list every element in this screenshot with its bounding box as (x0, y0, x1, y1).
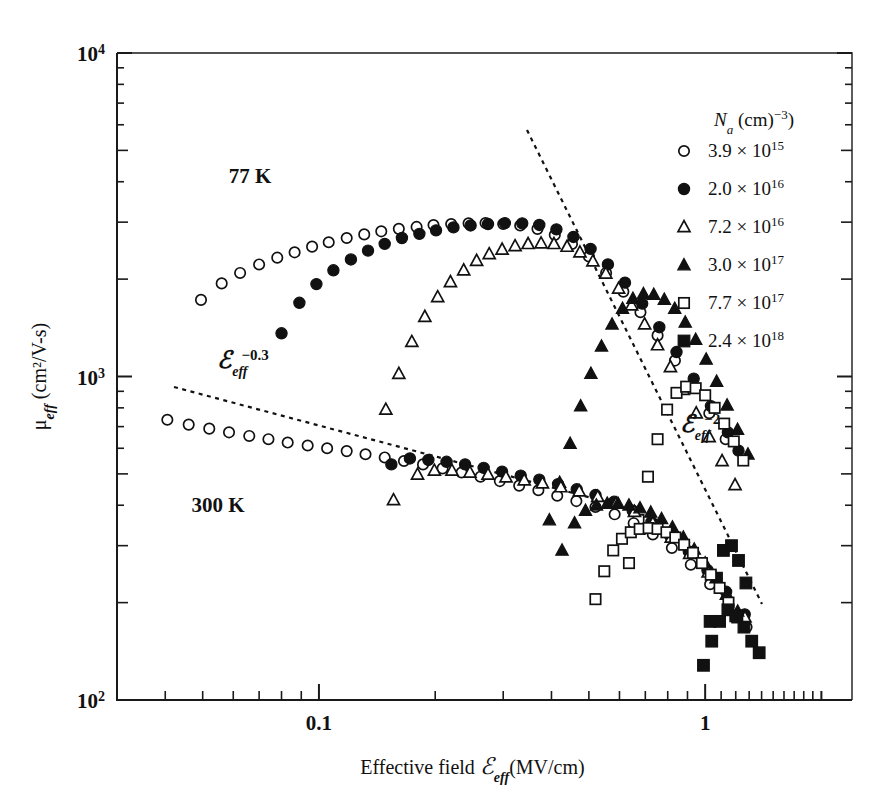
marker-filled-square (730, 610, 742, 622)
marker-open-square (590, 594, 600, 604)
marker-filled-circle (671, 346, 682, 357)
marker-open-circle (272, 252, 282, 262)
marker-filled-circle (404, 453, 415, 464)
temp-77k: 77 K (229, 164, 272, 188)
marker-open-circle (224, 427, 234, 437)
marker-open-square (700, 390, 710, 400)
marker-open-circle (254, 259, 264, 269)
marker-open-square (679, 298, 689, 308)
marker-open-circle (679, 146, 689, 156)
marker-filled-square (746, 635, 758, 647)
marker-open-circle (204, 423, 214, 433)
marker-filled-circle (678, 183, 689, 194)
marker-filled-circle (311, 279, 322, 290)
temp-300k: 300 K (191, 493, 245, 517)
marker-filled-circle (276, 328, 287, 339)
marker-open-square (706, 569, 716, 579)
marker-open-square (662, 404, 672, 414)
marker-filled-circle (585, 243, 596, 254)
marker-open-circle (162, 415, 172, 425)
marker-open-square (624, 558, 634, 568)
marker-open-square (688, 548, 698, 558)
marker-open-circle (686, 559, 696, 569)
marker-open-circle (609, 509, 619, 519)
marker-open-square (738, 455, 748, 465)
x-tick-label: 0.1 (306, 711, 332, 735)
marker-filled-square (726, 540, 738, 552)
marker-filled-circle (414, 228, 425, 239)
marker-filled-square (753, 647, 765, 659)
marker-filled-circle (362, 245, 373, 256)
marker-filled-circle (430, 225, 441, 236)
marker-filled-circle (551, 224, 562, 235)
marker-open-circle (263, 434, 273, 444)
marker-filled-circle (517, 218, 528, 229)
marker-filled-square (678, 335, 690, 347)
x-tick-label: 1 (700, 711, 711, 735)
marker-open-circle (289, 247, 299, 257)
marker-filled-circle (602, 259, 613, 270)
marker-filled-square (714, 616, 726, 628)
marker-filled-circle (345, 254, 356, 265)
marker-filled-circle (328, 265, 339, 276)
marker-filled-circle (386, 459, 397, 470)
marker-filled-square (738, 621, 750, 633)
marker-open-square (714, 583, 724, 593)
marker-filled-circle (423, 454, 434, 465)
marker-open-circle (282, 437, 292, 447)
marker-open-circle (307, 241, 317, 251)
marker-filled-square (706, 635, 718, 647)
marker-filled-circle (482, 218, 493, 229)
marker-open-circle (322, 443, 332, 453)
figure-container: 0.11102103104 77 K300 Kℰeff−0.3ℰeff−2 Na… (0, 0, 896, 805)
marker-filled-circle (448, 222, 459, 233)
marker-open-square (599, 566, 609, 576)
marker-open-square (719, 418, 729, 428)
marker-filled-circle (499, 217, 510, 228)
marker-open-circle (244, 431, 254, 441)
marker-open-circle (667, 543, 677, 553)
marker-open-square (608, 545, 618, 555)
marker-filled-square (698, 660, 710, 672)
marker-open-circle (571, 496, 581, 506)
marker-open-circle (376, 226, 386, 236)
marker-open-square (643, 472, 653, 482)
marker-open-circle (302, 440, 312, 450)
marker-filled-circle (654, 322, 665, 333)
marker-filled-circle (534, 219, 545, 230)
marker-open-square (652, 434, 662, 444)
marker-open-circle (235, 268, 245, 278)
marker-open-circle (196, 295, 206, 305)
marker-open-circle (324, 237, 334, 247)
marker-open-circle (359, 229, 369, 239)
marker-open-square (729, 436, 739, 446)
scatter-plot: 0.11102103104 77 K300 Kℰeff−0.3ℰeff−2 Na… (0, 0, 896, 805)
marker-open-circle (342, 446, 352, 456)
marker-filled-circle (396, 232, 407, 243)
marker-open-circle (183, 419, 193, 429)
marker-open-circle (360, 449, 370, 459)
marker-open-circle (342, 233, 352, 243)
marker-open-circle (216, 278, 226, 288)
marker-filled-circle (568, 231, 579, 242)
marker-filled-circle (465, 220, 476, 231)
marker-filled-square (740, 577, 752, 589)
marker-filled-circle (294, 297, 305, 308)
marker-filled-circle (379, 238, 390, 249)
marker-open-square (697, 558, 707, 568)
marker-filled-square (733, 555, 745, 567)
